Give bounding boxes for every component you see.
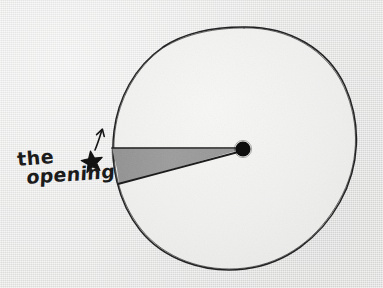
arrow-up-right-icon xyxy=(95,129,104,150)
diagram-canvas: the opening xyxy=(0,0,383,288)
center-dot xyxy=(234,140,251,157)
hand-drawn-circle-diagram xyxy=(0,0,383,288)
